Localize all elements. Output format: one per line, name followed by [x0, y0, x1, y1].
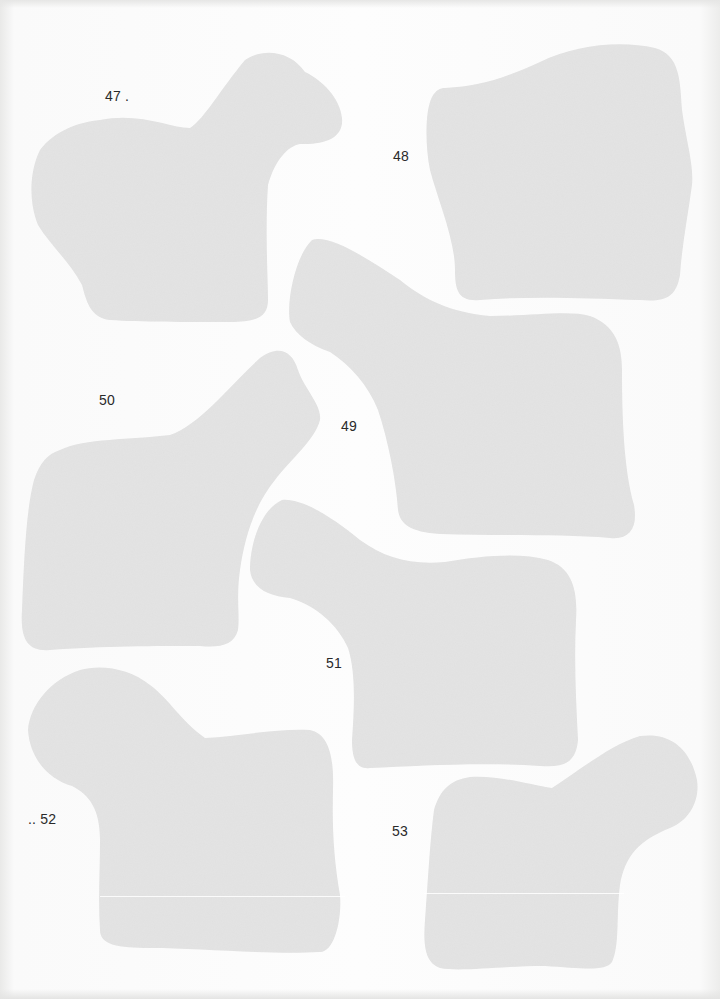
label-shape-47: 47 . [105, 88, 129, 104]
shape-53 [424, 735, 697, 969]
label-shape-51: 51 [326, 655, 342, 671]
label-shape-53: 53 [392, 823, 408, 839]
label-shape-48: 48 [393, 148, 409, 164]
label-shape-52: .. 52 [28, 811, 56, 827]
shape-48 [426, 44, 692, 300]
pattern-sheet-page: 47 . 48 49 50 51 .. 52 53 [0, 0, 720, 999]
fold-crease-53 [424, 893, 624, 894]
shape-52 [28, 667, 340, 952]
shape-51 [250, 500, 578, 768]
shape-50 [22, 351, 320, 650]
label-shape-49: 49 [341, 418, 357, 434]
fold-crease-52 [100, 896, 345, 897]
shape-canvas [0, 0, 720, 999]
label-shape-50: 50 [99, 392, 115, 408]
